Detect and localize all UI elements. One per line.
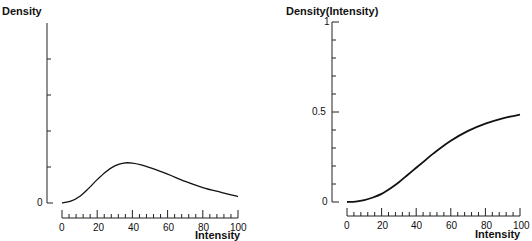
cumulative-density-plot: [0, 0, 532, 241]
